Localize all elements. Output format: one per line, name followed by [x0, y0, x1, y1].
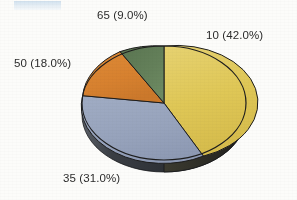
pie-label-35: 35 (31.0%): [63, 172, 120, 184]
pie-chart-figure: 65 (9.0%) 10 (42.0%) 50 (18.0%) 35 (31.0…: [0, 0, 297, 200]
pie-label-50: 50 (18.0%): [14, 57, 71, 69]
pie-label-65: 65 (9.0%): [97, 9, 148, 21]
pie-chart-graphic: [82, 40, 246, 166]
pie-label-10: 10 (42.0%): [206, 29, 263, 41]
pie-svg: [82, 40, 246, 166]
scan-artifact-band: [14, 1, 61, 10]
